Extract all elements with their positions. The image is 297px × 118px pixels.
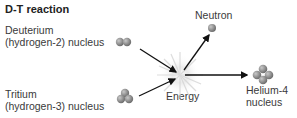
reaction-diagram <box>0 0 297 118</box>
neutron-particle-icon <box>208 24 216 32</box>
helium-nucleus-icon <box>253 65 274 85</box>
tritium-nucleus-icon <box>117 89 133 103</box>
deuterium-nucleus-icon <box>116 38 131 46</box>
